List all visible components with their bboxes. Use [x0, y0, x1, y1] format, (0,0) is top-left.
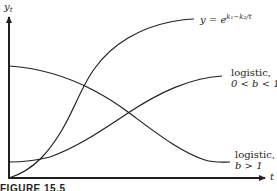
curve-gompertz [9, 19, 194, 178]
figure-caption: FIGURE 15.5 [0, 183, 66, 191]
y-axis-label-subscript: t [10, 6, 13, 14]
label-logistic-small-b: logistic, 0 < b < 1 [231, 67, 277, 89]
label-logistic-small-b-line1: logistic, [231, 67, 277, 78]
curve-logistic-small-b [9, 76, 222, 162]
label-logistic-large-b-line1: logistic, [235, 149, 275, 160]
label-gompertz: y = ek₁−k₂/t [200, 14, 251, 25]
label-logistic-small-b-line2: 0 < b < 1 [231, 78, 277, 89]
y-axis-label: yt [4, 1, 12, 12]
label-gompertz-exponent: k₁−k₂/t [226, 13, 251, 21]
label-logistic-large-b-line2: b > 1 [235, 160, 275, 171]
label-gompertz-base: y = e [200, 14, 226, 25]
label-logistic-large-b: logistic, b > 1 [235, 149, 275, 171]
x-axis-label: t [270, 171, 274, 182]
